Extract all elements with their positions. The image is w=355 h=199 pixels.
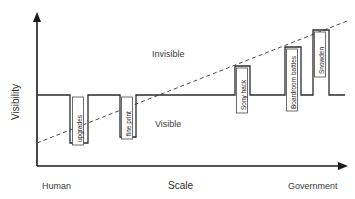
y-axis-arrow-icon <box>33 12 41 22</box>
event-marker-sony-hack: Sony hack <box>237 68 248 113</box>
visibility-scale-chart: upgrades fine print Sony hack Boardroom … <box>0 0 355 199</box>
event-marker-snowden: Snowden <box>315 32 326 77</box>
region-label-invisible: Invisible <box>152 49 185 59</box>
x-tick-label-human: Human <box>42 181 71 191</box>
event-label-sony-hack: Sony hack <box>240 79 248 110</box>
chart-canvas: upgrades fine print Sony hack Boardroom … <box>0 0 355 199</box>
region-labels-group: Invisible Visible <box>152 49 185 129</box>
y-axis-title: Visibility <box>10 84 21 120</box>
x-tick-label-government: Government <box>288 181 338 191</box>
event-marker-boardroom-battles: Boardroom battles <box>287 49 298 111</box>
event-label-snowden: Snowden <box>318 47 325 74</box>
x-axis-title: Scale <box>168 180 193 191</box>
event-label-boardroom-battles: Boardroom battles <box>290 55 297 109</box>
event-label-fine-print: fine print <box>125 111 133 136</box>
event-marker-fine-print: fine print <box>122 97 133 139</box>
event-marker-upgrades: upgrades <box>73 97 84 145</box>
event-labels-group: upgrades fine print Sony hack Boardroom … <box>73 32 326 145</box>
x-axis-arrow-icon <box>338 162 348 170</box>
event-label-upgrades: upgrades <box>76 114 84 142</box>
region-label-visible: Visible <box>155 119 181 129</box>
